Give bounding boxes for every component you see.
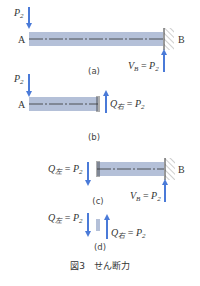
beam-slice — [96, 219, 100, 231]
reaction-label: VB = P2 — [128, 60, 159, 73]
point-a-label: A — [18, 99, 26, 110]
panel-label-c: (c) — [92, 196, 103, 206]
panel-d: Q左 = P2 Q右 = P2 (d) — [48, 212, 146, 252]
shear-label: Q左 = P2 — [48, 163, 83, 176]
point-a-label: A — [18, 34, 26, 45]
point-b-label: B — [178, 164, 185, 175]
reaction-label: VB = P2 — [130, 190, 161, 203]
panel-label-a: (a) — [88, 66, 100, 76]
panel-c: Q左 = P2 B VB = P2 (c) — [48, 158, 185, 206]
panel-a: P2 A B VB = P2 (a) — [13, 7, 185, 76]
shear-left-label: Q左 = P2 — [48, 212, 83, 225]
fixed-wall — [164, 28, 174, 50]
fixed-wall — [165, 158, 175, 180]
load-label: P2 — [13, 7, 24, 20]
panel-label-d: (d) — [94, 242, 106, 252]
figure-caption: 図3 せん断力 — [70, 260, 130, 271]
panel-label-b: (b) — [88, 132, 100, 142]
load-label: P2 — [13, 73, 24, 86]
panel-b: P2 A Q右 = P2 (b) — [13, 73, 145, 142]
shear-label: Q右 = P2 — [110, 98, 145, 111]
point-b-label: B — [178, 34, 185, 45]
shear-right-label: Q右 = P2 — [111, 227, 146, 240]
shear-force-diagram: P2 A B VB = P2 (a) P2 A Q右 = P2 (b) Q左 =… — [0, 0, 200, 286]
